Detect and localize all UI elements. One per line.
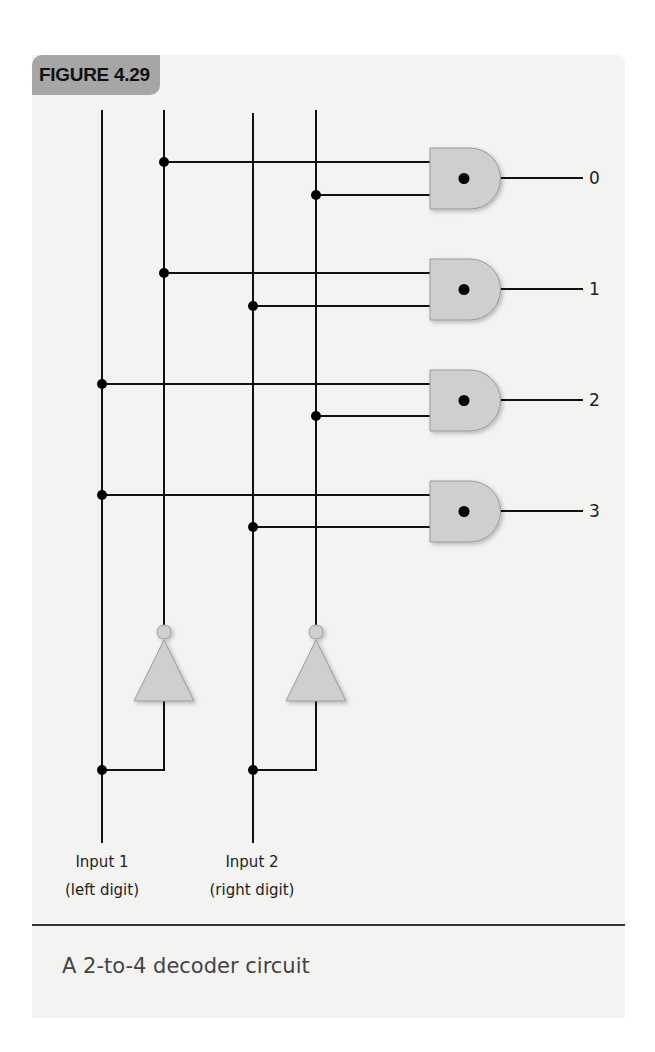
input-2-label: Input 2 (right digit) [187, 848, 317, 904]
input-2-title: Input 2 [187, 848, 317, 876]
input-1-subtitle: (left digit) [42, 876, 162, 904]
and-gate-1 [430, 259, 500, 320]
and-gate-3 [430, 481, 500, 542]
output-label-3: 3 [589, 501, 600, 521]
figure-caption: A 2-to-4 decoder circuit [62, 954, 310, 978]
not-gate-1 [134, 625, 194, 701]
caption-divider [32, 924, 625, 926]
and-gate-2 [430, 370, 500, 431]
input-1-label: Input 1 (left digit) [42, 848, 162, 904]
and-gate-0 [430, 148, 500, 209]
output-label-1: 1 [589, 279, 600, 299]
input-1-title: Input 1 [42, 848, 162, 876]
input-2-subtitle: (right digit) [187, 876, 317, 904]
junction-dots [97, 157, 321, 775]
output-label-0: 0 [589, 168, 600, 188]
not-gate-2 [286, 625, 346, 701]
output-label-2: 2 [589, 390, 600, 410]
